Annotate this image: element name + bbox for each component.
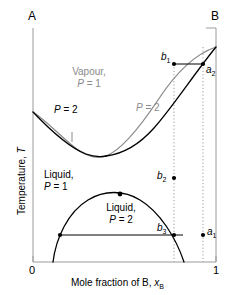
point-label-b2: b2 — [157, 170, 166, 184]
x-axis-title-subscript: B — [159, 283, 164, 290]
point-label-b3: b3 — [157, 222, 166, 236]
curve-liquid-left-lens — [33, 112, 106, 157]
annotation-liquid-p2-line1: Liquid, — [106, 202, 135, 213]
point-b2 — [172, 176, 176, 180]
phase-diagram-figure: A B 0 1 Mole fraction of B, xB Temperatu… — [0, 0, 235, 295]
corner-label-a: A — [28, 10, 36, 24]
point-label-b1: b1 — [161, 51, 170, 65]
y-axis-title: Temperature, T — [16, 147, 27, 215]
point-b1 — [172, 62, 176, 66]
point-a1 — [201, 233, 205, 237]
annotation-liquid-p1-line1: Liquid, — [44, 169, 73, 180]
annotation-liquid-p2-value: = 2 — [119, 214, 133, 225]
point-label-a1: a1 — [207, 226, 216, 240]
xtick-label-zero: 0 — [29, 264, 35, 277]
annotation-vapour-region: Vapour, P = 1 — [58, 66, 120, 89]
annotation-liquid-p1-p: P — [44, 181, 51, 192]
point-label-a1-sub: 1 — [213, 232, 217, 239]
x-axis-title: Mole fraction of B, xB — [0, 277, 235, 290]
point-a2 — [201, 62, 205, 66]
point-label-b3-sub: 3 — [163, 228, 167, 235]
point-label-a2: a2 — [206, 64, 215, 78]
point-label-b2-sub: 2 — [163, 176, 167, 183]
annotation-vapour-p2: P = 2 — [136, 102, 160, 114]
point-label-b1-sub: 1 — [167, 57, 171, 64]
annotation-liquid-p1-value: = 1 — [53, 181, 67, 192]
point-dome-apex — [118, 192, 123, 197]
corner-label-b: B — [211, 10, 219, 24]
xtick-label-one: 1 — [213, 264, 219, 277]
annotation-vapour-p2-value: = 2 — [145, 102, 159, 113]
y-axis-title-text: Temperature, — [16, 153, 27, 215]
annotation-lens-p2-value: = 2 — [63, 104, 77, 115]
point-tie-left-end — [58, 233, 62, 237]
phase-diagram-plot — [0, 0, 235, 295]
annotation-liquid-p2-p: P — [109, 214, 116, 225]
x-axis-title-text: Mole fraction of B, — [71, 277, 154, 288]
annotation-vapour-value: = 1 — [87, 78, 101, 89]
point-label-a2-sub: 2 — [212, 70, 216, 77]
annotation-vapour-line1: Vapour, — [72, 66, 106, 77]
annotation-liquid-p2-region: Liquid, P = 2 — [90, 202, 152, 225]
curve-vapour-left-lens — [33, 112, 106, 158]
annotation-vapour-p2-p: P — [136, 102, 143, 113]
annotation-liquid-p1-region: Liquid, P = 1 — [44, 169, 73, 192]
annotation-lens-p2-p: P — [54, 104, 61, 115]
annotation-vapour-p: P — [77, 78, 84, 89]
point-b3 — [172, 233, 176, 237]
y-axis-title-variable: T — [16, 147, 27, 153]
annotation-lens-p2: P = 2 — [54, 104, 78, 116]
